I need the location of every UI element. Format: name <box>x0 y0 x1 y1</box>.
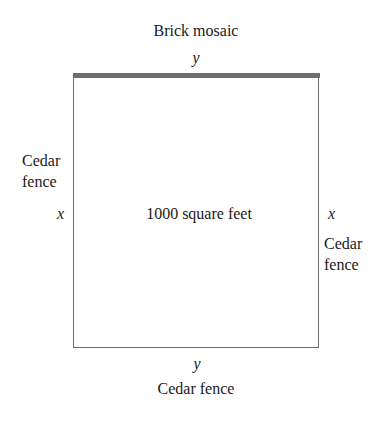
left-material-label-line1: Cedar <box>22 152 60 170</box>
brick-mosaic-edge <box>73 73 320 78</box>
area-label: 1000 square feet <box>146 205 252 223</box>
bottom-variable-label: y <box>193 355 200 373</box>
left-material-label-line2: fence <box>22 173 57 191</box>
left-variable-label: x <box>57 205 64 223</box>
right-variable-label: x <box>328 205 335 223</box>
right-material-label-line2: fence <box>324 256 359 274</box>
top-variable-label: y <box>192 49 199 67</box>
bottom-material-label: Cedar fence <box>158 380 235 398</box>
right-material-label-line1: Cedar <box>324 235 362 253</box>
top-material-label: Brick mosaic <box>154 22 239 40</box>
